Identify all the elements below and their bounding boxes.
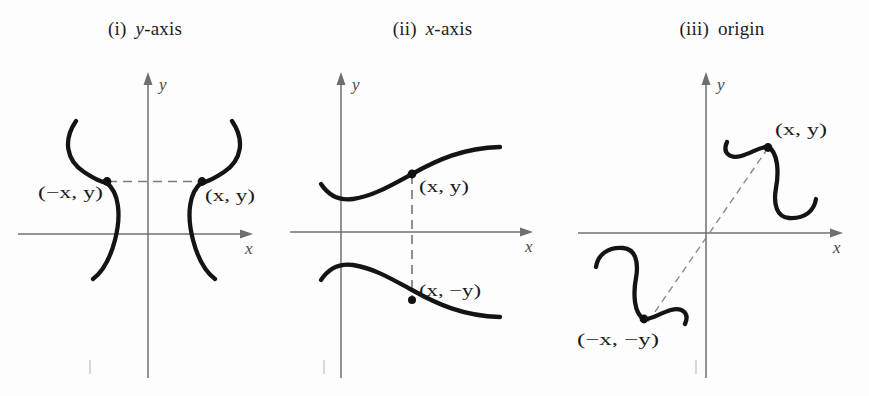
y-axis-arrowhead	[337, 72, 346, 85]
point-label-x-y: (x, y)	[205, 185, 255, 205]
point-label-x-neg-y: (x, −y)	[419, 280, 481, 300]
point-label-neg-x-neg-y: (−x, −y)	[577, 329, 659, 349]
point-label-x-y: (x, y)	[775, 119, 827, 139]
x-axis-arrowhead	[520, 228, 533, 237]
y-axis-label: y	[715, 75, 725, 94]
point-dot-x-y	[408, 170, 417, 179]
x-axis-label: x	[524, 237, 533, 256]
x-axis-label: x	[244, 239, 253, 258]
plot-area-panel-2: y x (x, y) (x, −y)	[285, 0, 580, 396]
y-axis-arrowhead	[702, 72, 711, 85]
point-dot-neg-x-y	[103, 177, 112, 186]
panel-origin-symmetry: (iii)origin y x (x, y) (−x, −y)	[575, 0, 869, 396]
plot-area-panel-1: y x (−x, y) (x, y)	[0, 0, 290, 396]
symmetry-figure: (i)y-axis y x (−x, y) (x, y) (ii)	[0, 0, 869, 396]
x-axis-arrowhead	[240, 230, 253, 239]
x-axis-arrowhead	[830, 229, 843, 238]
point-dot-neg-x-neg-y	[640, 315, 649, 324]
curve-upper-right-branch	[725, 142, 816, 218]
curve-lower-left-branch	[596, 248, 687, 324]
point-dot-x-y	[764, 143, 773, 152]
point-label-neg-x-y: (−x, y)	[38, 182, 103, 202]
y-axis-label: y	[350, 75, 360, 94]
point-dot-x-neg-y	[408, 296, 416, 304]
panel-y-axis-symmetry: (i)y-axis y x (−x, y) (x, y)	[0, 0, 290, 396]
dashed-connector-through-origin	[648, 148, 768, 322]
panel-x-axis-symmetry: (ii)x-axis y x (x, y) (x, −y)	[285, 0, 580, 396]
x-axis-label: x	[832, 238, 841, 257]
point-label-x-y: (x, y)	[419, 176, 469, 196]
plot-area-panel-3: y x (x, y) (−x, −y)	[575, 0, 869, 396]
y-axis-arrowhead	[144, 72, 153, 85]
y-axis-label: y	[157, 75, 167, 94]
